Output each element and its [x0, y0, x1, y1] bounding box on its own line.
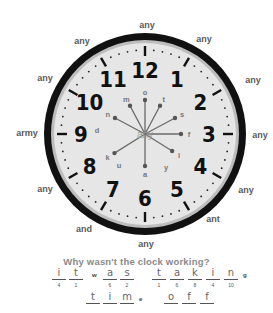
- hour-numeral: 2: [194, 90, 208, 115]
- minute-dot: [228, 142, 230, 144]
- minute-dot: [153, 217, 155, 219]
- loose-letter: d: [95, 126, 100, 135]
- spoke-letter: m: [123, 95, 130, 104]
- spoke-dot: [143, 98, 147, 102]
- spoke-dot: [158, 104, 162, 108]
- spoke-dot: [143, 164, 147, 168]
- minute-dot: [170, 53, 172, 55]
- minute-dot: [127, 51, 129, 53]
- minute-dot: [61, 124, 63, 126]
- hour-numeral: 8: [83, 154, 97, 179]
- clue-number: 10: [224, 282, 238, 288]
- minute-dot: [200, 196, 202, 198]
- clue-number: 4: [52, 282, 66, 288]
- minute-dot: [153, 50, 155, 52]
- hour-numeral: 9: [74, 122, 88, 147]
- minute-dot: [61, 142, 63, 144]
- minute-dot: [135, 217, 137, 219]
- given-letter: w: [92, 272, 97, 278]
- minute-dot: [178, 210, 180, 212]
- minute-dot: [224, 159, 226, 161]
- answer-blank[interactable]: n: [224, 268, 238, 280]
- clue-number: 8: [188, 282, 202, 288]
- minute-dot: [221, 99, 223, 101]
- minute-dot: [200, 71, 202, 73]
- minute-dot: [226, 116, 228, 118]
- hour-numeral: 11: [99, 67, 127, 92]
- answer-blank[interactable]: t: [152, 268, 166, 280]
- hour-numeral: 12: [131, 58, 159, 83]
- hour-numeral: 5: [170, 177, 184, 202]
- minute-dot: [170, 213, 172, 215]
- minute-dot: [64, 159, 66, 161]
- answer-blank[interactable]: i: [103, 292, 117, 304]
- minute-dot: [193, 201, 195, 203]
- loose-letter: u: [117, 161, 122, 170]
- minute-dot: [110, 56, 112, 58]
- minute-dot: [95, 201, 97, 203]
- answer-blank[interactable]: o: [164, 292, 178, 304]
- clue-number: 1: [69, 282, 83, 288]
- hour-numeral: 10: [76, 90, 104, 115]
- minute-dot: [82, 189, 84, 191]
- minute-dot: [118, 53, 120, 55]
- answer-blank[interactable]: a: [103, 268, 117, 280]
- minute-dot: [224, 107, 226, 109]
- answer-blank[interactable]: i: [52, 268, 66, 280]
- minute-dot: [95, 65, 97, 67]
- minute-dot: [226, 151, 228, 153]
- given-letter: g: [243, 272, 247, 278]
- answer-blank[interactable]: i: [206, 268, 220, 280]
- clue-number: 6: [170, 282, 184, 288]
- answer-blank[interactable]: t: [86, 292, 100, 304]
- spoke-dot: [128, 104, 132, 108]
- hour-numeral: 4: [194, 154, 208, 179]
- answer-blank[interactable]: t: [69, 268, 83, 280]
- hour-numeral: 6: [138, 186, 152, 211]
- given-letter: e: [139, 296, 142, 302]
- minute-dot: [64, 107, 66, 109]
- minute-dot: [135, 50, 137, 52]
- answer-blank[interactable]: f: [182, 292, 196, 304]
- clue-number: 6: [103, 282, 117, 288]
- spoke-dot: [179, 132, 183, 136]
- minute-dot: [118, 213, 120, 215]
- riddle-question: Why wasn't the clock working?: [0, 256, 273, 267]
- minute-dot: [212, 84, 214, 86]
- answer-blank[interactable]: m: [120, 292, 134, 304]
- minute-dot: [193, 65, 195, 67]
- clue-number: 4: [206, 282, 220, 288]
- center-label: any: [137, 129, 153, 140]
- spoke-dot: [170, 149, 174, 153]
- answer-blank[interactable]: f: [200, 292, 214, 304]
- minute-dot: [76, 182, 78, 184]
- minute-dot: [62, 116, 64, 118]
- clue-number: 1: [152, 282, 166, 288]
- answer-blank[interactable]: a: [170, 268, 184, 280]
- spoke-letter: o: [143, 88, 148, 97]
- minute-dot: [228, 124, 230, 126]
- minute-dot: [88, 71, 90, 73]
- answer-blank[interactable]: k: [188, 268, 202, 280]
- minute-dot: [162, 51, 164, 53]
- minute-dot: [221, 167, 223, 169]
- spoke-dot: [173, 116, 177, 120]
- minute-dot: [127, 215, 129, 217]
- minute-dot: [178, 56, 180, 58]
- clue-number: 2: [120, 282, 134, 288]
- minute-dot: [110, 210, 112, 212]
- minute-dot: [212, 182, 214, 184]
- hour-numeral: 1: [170, 67, 184, 92]
- minute-dot: [207, 77, 209, 79]
- minute-dot: [67, 167, 69, 169]
- minute-dot: [67, 99, 69, 101]
- minute-dot: [62, 151, 64, 153]
- answer-blank[interactable]: s: [120, 268, 134, 280]
- hour-numeral: 7: [106, 177, 120, 202]
- minute-dot: [76, 84, 78, 86]
- spoke-dot: [113, 116, 117, 120]
- minute-dot: [88, 196, 90, 198]
- spoke-letter: n: [106, 110, 111, 119]
- spoke-letter: s: [180, 110, 184, 119]
- minute-dot: [82, 77, 84, 79]
